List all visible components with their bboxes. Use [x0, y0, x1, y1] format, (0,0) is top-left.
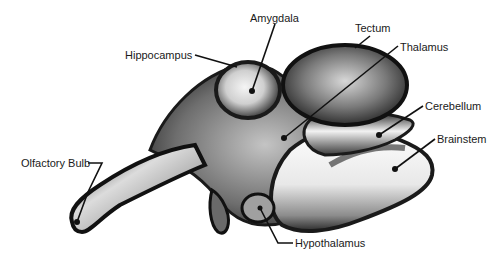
- brain-diagram: Amygdala Tectum Hippocampus Thalamus Cer…: [0, 0, 503, 262]
- label-cerebellum: Cerebellum: [425, 100, 481, 112]
- label-thalamus: Thalamus: [400, 41, 448, 53]
- olfactory-bulb-shape: [71, 145, 205, 232]
- label-amygdala: Amygdala: [250, 12, 299, 24]
- label-brainstem: Brainstem: [437, 133, 487, 145]
- amygdala-shape: [216, 62, 280, 118]
- label-hypothalamus: Hypothalamus: [295, 237, 365, 249]
- label-tectum: Tectum: [355, 22, 390, 34]
- label-olfactory-bulb: Olfactory Bulb: [21, 157, 90, 169]
- label-hippocampus: Hippocampus: [125, 49, 192, 61]
- brain-illustration: [0, 0, 503, 262]
- tectum-shape: [283, 45, 407, 125]
